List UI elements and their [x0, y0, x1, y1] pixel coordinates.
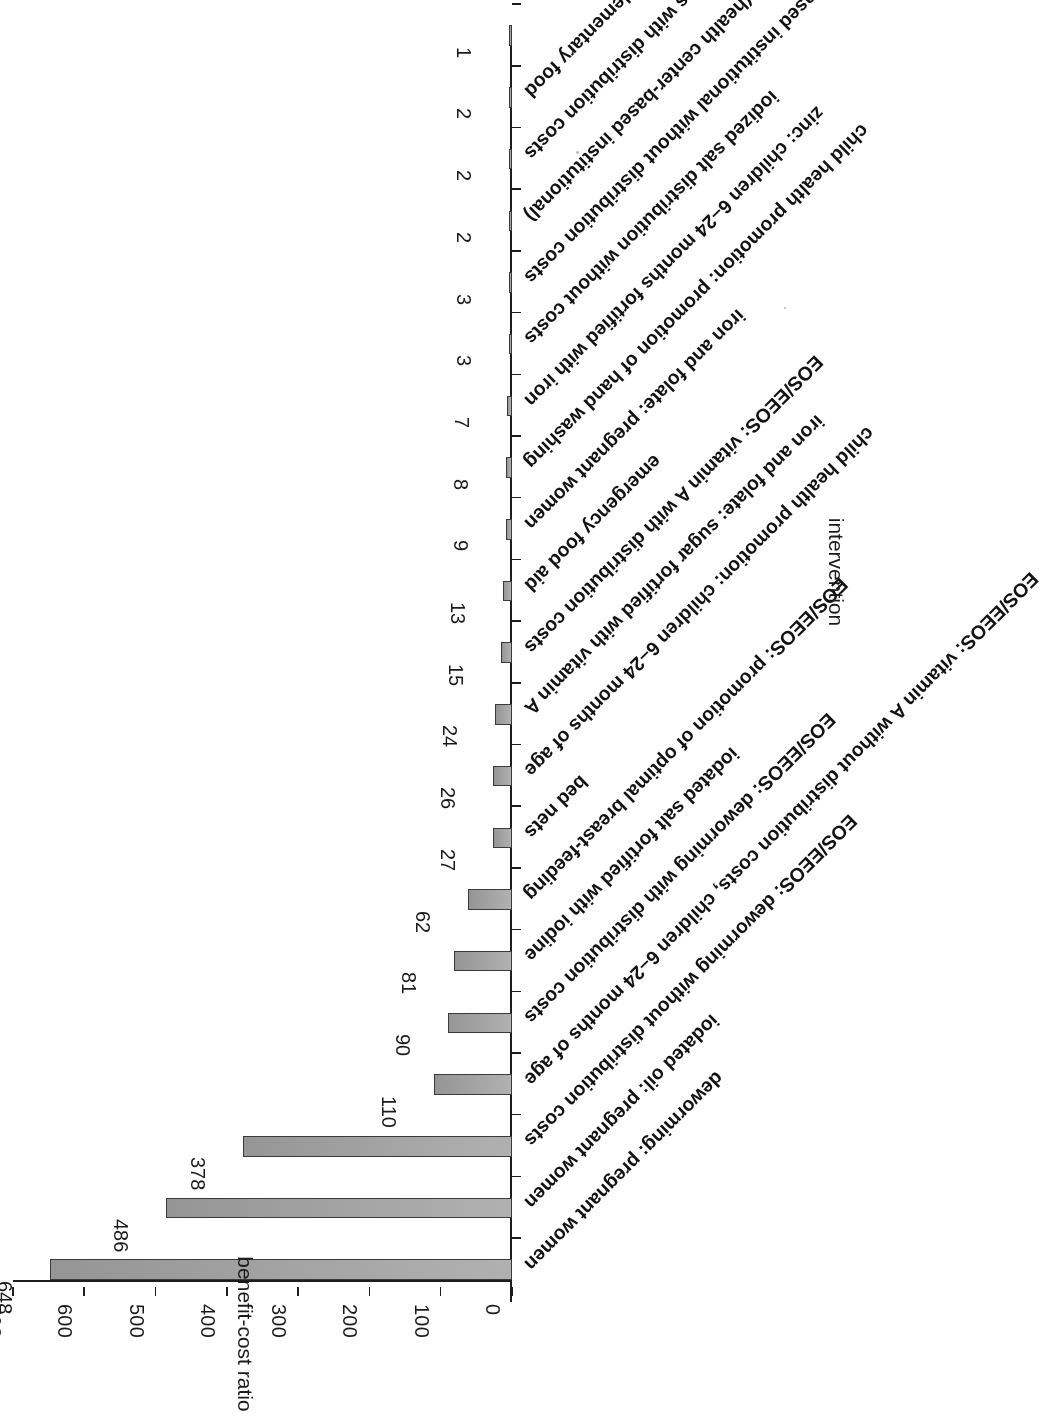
value-axis-tick-label: 100 — [410, 1304, 433, 1338]
bar — [448, 1013, 512, 1034]
bar — [510, 87, 513, 108]
scan-speck — [784, 307, 786, 309]
bar — [510, 211, 513, 232]
category-axis-tick — [512, 1114, 521, 1116]
bar — [507, 396, 512, 417]
bar-value-label: 3 — [453, 294, 476, 305]
bar — [506, 519, 512, 540]
scan-speck — [576, 151, 579, 154]
bar-value-label: 7 — [450, 417, 473, 428]
value-axis-tick-label: 300 — [267, 1304, 290, 1338]
bar-value-label: 27 — [436, 849, 459, 871]
bar-value-label: 13 — [446, 602, 469, 624]
value-axis-tick — [297, 1287, 299, 1296]
value-axis-tick-label: 400 — [196, 1304, 219, 1338]
bar-value-label: 8 — [449, 479, 472, 490]
bar — [493, 766, 512, 787]
bar — [510, 26, 513, 47]
category-axis-tick — [512, 65, 521, 67]
category-axis-tick — [512, 189, 521, 191]
category-axis-tick — [512, 929, 521, 931]
bar — [434, 1074, 512, 1095]
bar-value-label: 1 — [453, 47, 476, 58]
category-axis-tick — [512, 250, 521, 252]
category-label: iron and folate: pregnant women — [520, 305, 750, 535]
bar — [493, 828, 512, 849]
value-axis-tick-label: 600 — [53, 1304, 76, 1338]
bar-value-label: 110 — [377, 1096, 400, 1128]
bar-value-label: 648 — [0, 1281, 16, 1314]
bar-value-label: 486 — [109, 1219, 132, 1252]
bar-value-label: 62 — [411, 911, 434, 933]
value-axis-tick — [440, 1287, 442, 1296]
category-axis-tick — [512, 1052, 521, 1054]
value-axis-line — [13, 1280, 512, 1282]
category-axis-tick — [512, 435, 521, 437]
category-axis-tick — [512, 991, 521, 993]
bar-value-label: 15 — [444, 664, 467, 686]
category-axis-tick — [512, 559, 521, 561]
bar-value-label: 2 — [453, 108, 476, 119]
bar-value-label: 26 — [436, 787, 459, 809]
bar-value-label: 2 — [453, 170, 476, 181]
category-axis-tick — [512, 620, 521, 622]
value-axis-tick-label: 0 — [481, 1304, 504, 1315]
category-axis-tick — [512, 1176, 521, 1178]
category-axis-tick — [512, 1237, 521, 1239]
category-axis-tick — [512, 867, 521, 869]
bar — [243, 1136, 512, 1157]
value-axis-tick-label: 200 — [338, 1304, 361, 1338]
bar-value-label: 81 — [397, 972, 420, 994]
bar — [454, 951, 512, 972]
category-axis-title: intervention — [824, 518, 848, 627]
bar-value-label: 24 — [438, 725, 461, 747]
category-axis-tick — [512, 806, 521, 808]
bar — [510, 272, 513, 293]
value-axis-title: benefit-cost ratio — [233, 1256, 257, 1411]
bar — [506, 457, 512, 478]
bar-value-label: 2 — [453, 232, 476, 243]
category-axis-tick — [512, 374, 521, 376]
bar — [495, 704, 512, 725]
value-axis-tick-label: 500 — [125, 1304, 148, 1338]
bar-value-label: 90 — [391, 1034, 414, 1056]
value-axis-tick — [369, 1287, 371, 1296]
bar — [501, 643, 512, 664]
bar — [503, 581, 512, 602]
bar — [50, 1260, 512, 1281]
bar-value-label: 9 — [449, 540, 472, 551]
bar — [166, 1198, 512, 1219]
bar-value-label: 3 — [453, 355, 476, 366]
category-axis-tick — [512, 497, 521, 499]
bar-value-label: 378 — [186, 1157, 209, 1190]
category-axis-tick — [512, 127, 521, 129]
value-axis-tick — [226, 1287, 228, 1296]
bar — [510, 334, 513, 355]
category-axis-tick — [512, 744, 521, 746]
value-axis-tick — [84, 1287, 86, 1296]
bar — [510, 149, 513, 170]
category-axis-tick — [512, 682, 521, 684]
value-axis-tick — [511, 1287, 513, 1296]
value-axis-tick — [155, 1287, 157, 1296]
bar — [468, 889, 512, 910]
category-axis-tick — [512, 312, 521, 314]
category-axis-tick — [512, 3, 521, 5]
